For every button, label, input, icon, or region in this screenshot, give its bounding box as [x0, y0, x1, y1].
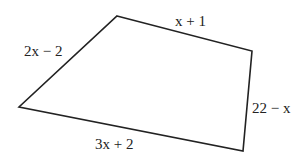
- quadrilateral-shape: [0, 0, 300, 160]
- label-right-side: 22 − x: [252, 101, 290, 116]
- quadrilateral-diagram: 2x − 2 x + 1 22 − x 3x + 2: [0, 0, 300, 160]
- label-left-side: 2x − 2: [24, 44, 62, 59]
- label-top-side: x + 1: [175, 14, 206, 29]
- label-bottom-side: 3x + 2: [95, 137, 133, 152]
